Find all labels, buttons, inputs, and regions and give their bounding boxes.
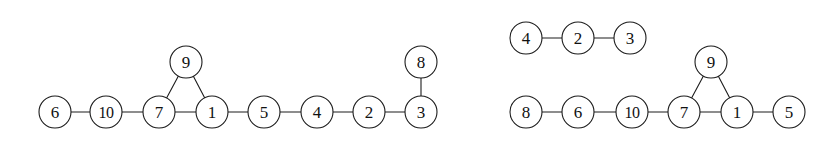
node-label: 8 [522,103,531,122]
graph-edge [167,76,179,98]
node-label: 10 [625,104,641,121]
graph-node[interactable]: 1 [721,96,753,128]
node-label: 6 [51,103,60,122]
node-label: 7 [680,103,689,122]
node-label: 3 [417,103,426,122]
graph-node[interactable]: 4 [301,96,333,128]
graph-node[interactable]: 6 [39,96,71,128]
nodes-layer: 6107915423842386107915 [39,22,805,128]
graph-svg: 6107915423842386107915 [0,0,825,141]
node-label: 10 [99,104,115,121]
graph-node[interactable]: 7 [668,96,700,128]
graph-node[interactable]: 3 [614,22,646,54]
graph-node[interactable]: 8 [405,46,437,78]
node-label: 6 [574,103,583,122]
node-label: 4 [522,29,531,48]
graph-node[interactable]: 4 [510,22,542,54]
left-graph-nodes: 61079154238 [39,46,437,128]
node-label: 5 [785,103,794,122]
node-label: 9 [182,53,191,72]
node-label: 9 [707,53,716,72]
graph-node[interactable]: 10 [616,96,648,128]
figure-canvas: 6107915423842386107915 [0,0,825,141]
node-label: 4 [313,103,322,122]
graph-edge [193,76,204,98]
node-label: 2 [365,103,374,122]
node-label: 5 [260,103,269,122]
graph-edge [692,76,704,98]
node-label: 1 [208,103,217,122]
graph-edge [718,76,729,98]
graph-node[interactable]: 5 [773,96,805,128]
graph-node[interactable]: 1 [196,96,228,128]
graph-node[interactable]: 2 [353,96,385,128]
graph-node[interactable]: 10 [90,96,122,128]
graph-node[interactable]: 2 [562,22,594,54]
graph-node[interactable]: 9 [695,46,727,78]
node-label: 8 [417,53,426,72]
graph-node[interactable]: 5 [248,96,280,128]
node-label: 3 [626,29,635,48]
graph-node[interactable]: 8 [510,96,542,128]
graph-node[interactable]: 9 [170,46,202,78]
node-label: 1 [733,103,742,122]
node-label: 2 [574,29,583,48]
graph-node[interactable]: 3 [405,96,437,128]
node-label: 7 [155,103,164,122]
graph-node[interactable]: 6 [562,96,594,128]
graph-node[interactable]: 7 [143,96,175,128]
